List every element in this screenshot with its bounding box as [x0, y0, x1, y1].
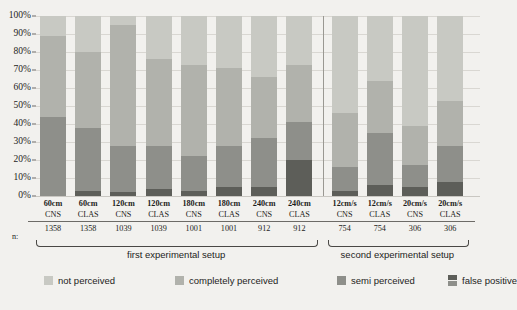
- bar-segment: [286, 16, 312, 65]
- y-axis-tick-label: 10%: [0, 173, 31, 183]
- bar-segment: [146, 146, 172, 189]
- bar-segment: [332, 191, 358, 196]
- bar-segment: [110, 16, 136, 25]
- y-axis-tick-label: 60%: [0, 83, 31, 93]
- bar-stack: [402, 16, 428, 196]
- bar-segment: [402, 165, 428, 187]
- bar-segment: [75, 52, 101, 128]
- bar-segment: [437, 182, 463, 196]
- bar-stack: [216, 16, 242, 196]
- bar-segment: [216, 68, 242, 145]
- chart-legend: not perceivedcompletely perceivedsemi pe…: [44, 275, 444, 295]
- bar-stack: [332, 16, 358, 196]
- bar-segment: [286, 160, 312, 196]
- bar-segment: [216, 187, 242, 196]
- bar-segment: [146, 59, 172, 145]
- bar-segment: [332, 16, 358, 113]
- bar-stack: [367, 16, 393, 196]
- n-row-label: n:: [12, 232, 18, 241]
- legend-label: semi perceived: [351, 275, 415, 286]
- setup-bracket: [36, 240, 318, 247]
- bar-segment: [181, 65, 207, 157]
- y-axis-tick-mark: [32, 106, 36, 107]
- bar-segment: [437, 146, 463, 182]
- legend-swatch-semi-perceived: [337, 276, 346, 285]
- x-axis-n-value: 912: [274, 222, 324, 235]
- gridline-0: [36, 196, 480, 197]
- y-axis-tick-mark: [32, 196, 36, 197]
- bar-segment: [251, 77, 277, 138]
- setup-divider: [323, 16, 324, 196]
- bar-segment: [216, 146, 242, 187]
- bar-segment: [437, 16, 463, 101]
- y-axis-tick-label: 0%: [0, 191, 31, 201]
- bar-segment: [402, 16, 428, 126]
- y-axis-tick-label: 80%: [0, 47, 31, 57]
- y-axis-tick-label: 40%: [0, 119, 31, 129]
- y-axis-tick-mark: [32, 178, 36, 179]
- x-axis-distance-label: 20cm/s: [425, 199, 475, 210]
- y-axis-tick-mark: [32, 142, 36, 143]
- setup-label: second experimental setup: [328, 249, 468, 260]
- bar-segment: [367, 16, 393, 81]
- legend-label: false positive: [462, 275, 517, 286]
- bar-segment: [181, 16, 207, 65]
- x-axis-method-label: CLAS: [425, 210, 475, 223]
- x-axis-n-value: 306: [425, 222, 475, 235]
- bar-segment: [402, 187, 428, 196]
- y-axis-tick-mark: [32, 34, 36, 35]
- legend-swatch-completely-perceived: [175, 276, 184, 285]
- bar-segment: [332, 167, 358, 190]
- bar-segment: [367, 185, 393, 196]
- y-axis-tick-label: 20%: [0, 155, 31, 165]
- x-axis-method-label: CLAS: [274, 210, 324, 223]
- bar-stack: [146, 16, 172, 196]
- bar-segment: [110, 192, 136, 196]
- x-axis-category: 20cm/sCLAS306: [425, 199, 475, 235]
- bar-segment: [40, 36, 66, 117]
- bar-stack: [286, 16, 312, 196]
- y-axis-tick-label: 100%: [0, 11, 31, 21]
- bar-segment: [367, 133, 393, 185]
- plot-area: [36, 16, 480, 196]
- bar-segment: [40, 16, 66, 36]
- legend-item: semi perceived: [337, 275, 415, 286]
- x-axis-category: 240cmCLAS912: [274, 199, 324, 235]
- bar-segment: [110, 25, 136, 146]
- y-axis-tick-mark: [32, 88, 36, 89]
- bar-segment: [146, 16, 172, 59]
- bar-segment: [251, 138, 277, 187]
- bar-stack: [110, 16, 136, 196]
- y-axis-tick-label: 30%: [0, 137, 31, 147]
- legend-label: completely perceived: [189, 275, 278, 286]
- legend-swatch-false-positive: [448, 275, 457, 286]
- y-axis-tick-label: 90%: [0, 29, 31, 39]
- bar-segment: [402, 126, 428, 166]
- y-axis-tick-mark: [32, 124, 36, 125]
- bar-segment: [251, 187, 277, 196]
- bar-segment: [110, 146, 136, 193]
- y-axis-tick-mark: [32, 16, 36, 17]
- bar-segment: [75, 16, 101, 52]
- legend-label: not perceived: [58, 275, 115, 286]
- y-axis-tick-mark: [32, 160, 36, 161]
- legend-item: completely perceived: [175, 275, 278, 286]
- bar-stack: [181, 16, 207, 196]
- y-axis-tick-mark: [32, 70, 36, 71]
- bar-segment: [437, 101, 463, 146]
- bar-stack: [437, 16, 463, 196]
- bar-segment: [286, 122, 312, 160]
- y-axis-tick-label: 70%: [0, 65, 31, 75]
- bar-segment: [181, 191, 207, 196]
- legend-item: false positive: [448, 275, 517, 286]
- legend-swatch-not-perceived: [44, 276, 53, 285]
- bar-segment: [367, 81, 393, 133]
- y-axis-tick-mark: [32, 52, 36, 53]
- bar-segment: [181, 156, 207, 190]
- setup-bracket: [328, 240, 470, 247]
- bar-segment: [332, 113, 358, 167]
- legend-item: not perceived: [44, 275, 115, 286]
- bar-segment: [40, 117, 66, 196]
- bar-segment: [75, 191, 101, 196]
